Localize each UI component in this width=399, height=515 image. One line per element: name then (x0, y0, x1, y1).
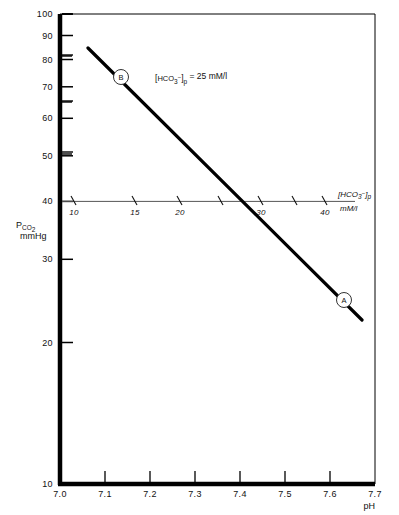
y-axis-title: PCO2 mmHg (16, 220, 47, 241)
point-marker-a-label: A (341, 296, 346, 305)
point-marker-b[interactable]: B (114, 70, 129, 85)
y-axis-ticks-major (62, 14, 73, 208)
xtick-label-74: 7.4 (233, 489, 246, 499)
y-axis-tick-labels: 100 90 80 70 60 50 40 30 20 10 (37, 9, 53, 489)
chart-figure: 100 90 80 70 60 50 40 30 20 10 PCO2 mmHg (0, 0, 399, 515)
x-axis-title: pH (363, 501, 375, 511)
xtick-label-73: 7.3 (188, 489, 201, 499)
isopleth-line (88, 48, 362, 320)
bicarbonate-axis-title-units: mM/l (340, 204, 358, 213)
ytick-label-20: 20 (42, 338, 53, 348)
bicarbonate-axis-ticks (71, 196, 327, 205)
ytick-label-70: 70 (42, 82, 53, 92)
xtick-label-77: 7.7 (368, 489, 381, 499)
ytick-label-60: 60 (42, 113, 53, 123)
bic-tick-label-20: 20 (174, 208, 185, 217)
xtick-label-72: 7.2 (143, 489, 156, 499)
y-axis-tick-marks (62, 14, 73, 343)
bic-tick-label-15: 15 (130, 208, 140, 217)
acid-base-diagram: 100 90 80 70 60 50 40 30 20 10 PCO2 mmHg (0, 0, 399, 515)
point-marker-b-label: B (118, 73, 123, 82)
bicarbonate-axis-title-formula: [HCO3−]p (337, 190, 371, 201)
xtick-label-71: 7.1 (98, 489, 111, 499)
xtick-label-70: 7.0 (53, 489, 66, 499)
plot-frame (58, 14, 375, 485)
bic-tick-label-10: 10 (69, 208, 79, 217)
ytick-label-30: 30 (42, 254, 53, 264)
y-axis-ticks (62, 14, 72, 212)
xtick-label-75: 7.5 (278, 489, 291, 499)
ytick-label-40: 40 (42, 196, 53, 206)
ytick-label-50: 50 (42, 151, 53, 161)
xtick-label-76: 7.6 (323, 489, 336, 499)
bicarbonate-axis-tick-labels: 10 15 20 30 40 (69, 208, 330, 217)
ytick-label-90: 90 (42, 31, 53, 41)
x-axis-tick-labels: 7.0 7.1 7.2 7.3 7.4 7.5 7.6 7.7 (53, 489, 381, 499)
ytick-label-10: 10 (42, 479, 53, 489)
ytick-label-100: 100 (37, 9, 53, 19)
isopleth-annotation: [HCO3−]p = 25 mM/l (155, 71, 227, 86)
ytick-label-80: 80 (42, 55, 53, 65)
bic-tick-label-40: 40 (320, 208, 330, 217)
x-axis-ticks (105, 471, 330, 482)
isopleth-annotation-text: [HCO3−]p = 25 mM/l (155, 71, 227, 86)
point-marker-a[interactable]: A (337, 293, 352, 308)
y-axis-title-units: mmHg (20, 231, 47, 241)
